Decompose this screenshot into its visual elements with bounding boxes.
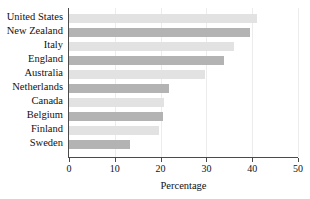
- x-tick: [69, 158, 70, 162]
- category-label: New Zealand: [0, 24, 66, 38]
- plot-area: [69, 8, 298, 157]
- category-label: Netherlands: [0, 80, 66, 94]
- bar-row: [69, 138, 298, 152]
- x-tick: [115, 158, 116, 162]
- bar-row: [69, 96, 298, 110]
- x-axis-title: Percentage: [69, 180, 298, 191]
- x-tick-label: 20: [146, 163, 176, 174]
- category-label: Australia: [0, 66, 66, 80]
- bar-chart: United StatesNew ZealandItalyEnglandAust…: [0, 0, 310, 199]
- bar-row: [69, 26, 298, 40]
- x-tick: [298, 158, 299, 162]
- bar-row: [69, 124, 298, 138]
- x-tick: [206, 158, 207, 162]
- bar: [69, 98, 164, 107]
- bar-series: [69, 8, 298, 157]
- bar: [69, 112, 163, 121]
- x-tick-label: 50: [283, 163, 310, 174]
- bar: [69, 42, 234, 51]
- bar-row: [69, 12, 298, 26]
- category-label: Italy: [0, 38, 66, 52]
- category-label: Sweden: [0, 136, 66, 150]
- y-axis-line: [68, 8, 69, 158]
- bar-row: [69, 110, 298, 124]
- x-tick-label: 30: [191, 163, 221, 174]
- x-tick: [161, 158, 162, 162]
- x-tick-label: 0: [54, 163, 84, 174]
- x-tick: [252, 158, 253, 162]
- bar: [69, 84, 169, 93]
- x-axis-line: [68, 157, 298, 158]
- bar: [69, 56, 224, 65]
- x-tick-label: 10: [100, 163, 130, 174]
- bar: [69, 28, 250, 37]
- bar-row: [69, 68, 298, 82]
- bar-row: [69, 82, 298, 96]
- bar-row: [69, 40, 298, 54]
- bar: [69, 126, 159, 135]
- category-label: United States: [0, 10, 66, 24]
- category-label: Canada: [0, 94, 66, 108]
- x-tick-label: 40: [237, 163, 267, 174]
- bar: [69, 14, 257, 23]
- gridline: [298, 8, 299, 157]
- category-label: Belgium: [0, 108, 66, 122]
- bar: [69, 70, 205, 79]
- bar: [69, 140, 130, 149]
- category-label: Finland: [0, 122, 66, 136]
- category-axis: United StatesNew ZealandItalyEnglandAust…: [0, 10, 66, 150]
- bar-row: [69, 54, 298, 68]
- category-label: England: [0, 52, 66, 66]
